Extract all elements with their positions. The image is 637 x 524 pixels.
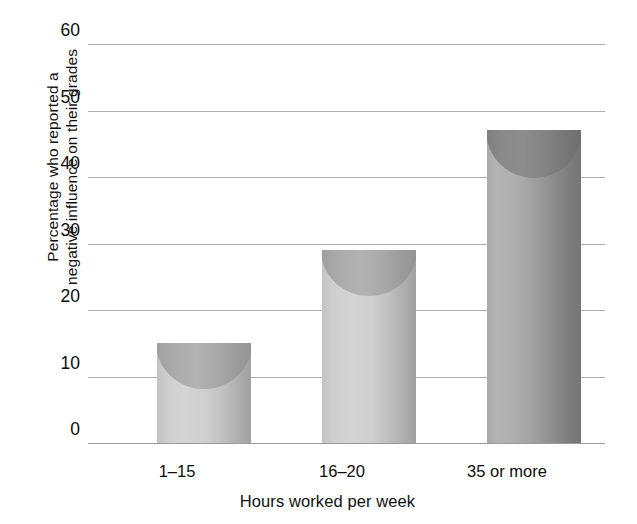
x-tick-label-1-15: 1–15: [112, 462, 242, 481]
bar-35-or-more[interactable]: [487, 130, 581, 443]
x-axis-title-text: Hours worked per week: [222, 492, 415, 511]
chart-figure: Percentage who reported a negative influ…: [0, 0, 637, 524]
bar-16-20[interactable]: [322, 250, 416, 443]
y-tick-label-50: 50: [40, 87, 80, 111]
bar-1-15[interactable]: [157, 343, 251, 443]
y-tick-label-0: 0: [40, 419, 80, 443]
x-tick-label-35-or-more: 35 or more: [442, 462, 572, 481]
y-tick-label-20: 20: [40, 286, 80, 310]
y-tick-label-40: 40: [40, 153, 80, 177]
x-axis-title: Hours worked per week: [0, 492, 637, 511]
x-tick-label-16-20: 16–20: [277, 462, 407, 481]
gridline-0-baseline: [88, 443, 605, 444]
plot-area: 60 50 40 30 20 10 0: [88, 44, 605, 443]
y-tick-label-30: 30: [40, 220, 80, 244]
y-tick-label-60: 60: [40, 20, 80, 44]
y-tick-label-10: 10: [40, 353, 80, 377]
